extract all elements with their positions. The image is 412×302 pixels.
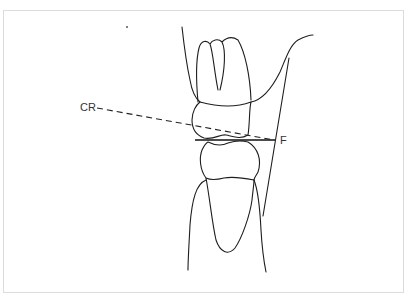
lower-premolar-root <box>206 178 254 252</box>
stray-dot <box>126 26 128 28</box>
upper-molar-crown <box>192 102 251 138</box>
cr-dashed-line <box>97 108 274 140</box>
upper-gum-right <box>251 35 313 102</box>
lower-gum-left <box>188 180 206 270</box>
lower-premolar-crown <box>200 141 259 180</box>
dental-occlusion-diagram <box>0 0 412 302</box>
f-label: F <box>280 135 287 146</box>
cr-label: CR <box>80 102 96 113</box>
lower-gum-right <box>254 180 266 272</box>
upper-molar-roots <box>197 38 251 102</box>
